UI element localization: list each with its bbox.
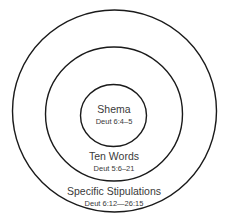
outer-ring-title: Specific Stipulations	[67, 185, 161, 197]
middle-ring-title: Ten Words	[89, 150, 139, 162]
inner-ring-reference: Deut 6:4–5	[96, 117, 133, 126]
concentric-diagram: Shema Deut 6:4–5 Ten Words Deut 5:6–21 S…	[0, 0, 227, 224]
inner-ring-title: Shema	[97, 103, 130, 115]
inner-circle	[81, 85, 147, 147]
middle-ring-reference: Deut 5:6–21	[94, 164, 135, 173]
outer-ring-reference: Deut 6:12—26:15	[85, 199, 144, 208]
